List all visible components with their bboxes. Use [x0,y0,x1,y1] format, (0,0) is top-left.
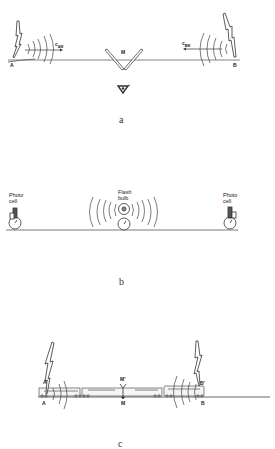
label-c-am: cAM [55,42,63,50]
observer-eye-icon [118,85,130,93]
label-photo-cell-left: Photocell [9,193,23,205]
lightning-bolt-a-icon [45,342,54,394]
lightning-bolt-a-icon [13,21,22,58]
label-mirror-m: M [121,50,125,55]
label-train-a-prime: A' [43,380,48,385]
label-train-b-prime: B' [200,381,205,386]
photo-cell-clock-right-icon [224,207,236,229]
panel-a: A B M cAM cBM a [0,0,275,150]
train-icon [39,386,204,397]
panel-b: Photocell Flashbulb Photocell b [0,150,275,300]
label-photo-cell-right: Photocell [223,193,237,205]
label-point-a: A [10,63,14,68]
photo-cell-clock-left-icon [9,208,21,229]
label-track-m: M [121,401,125,406]
flash-bulb-clock-icon [118,204,130,231]
panel-a-drawing [0,0,275,150]
label-flash-bulb: Flashbulb [118,190,131,202]
label-train-m-prime: M' [120,377,125,382]
label-c-bm: cBM [182,41,190,49]
panel-b-caption: b [119,276,124,287]
label-track-a: A [42,401,46,406]
panel-c-drawing [0,300,275,446]
label-track-b: B [201,401,205,406]
panel-b-drawing [0,150,275,300]
panel-a-caption: a [119,114,123,125]
panel-c: A' A M' M B' B c [0,300,275,446]
lightning-bolt-b-icon [223,13,236,57]
label-point-b: B [233,63,237,68]
wavefronts-b [200,33,227,66]
panel-c-caption: c [118,438,122,449]
